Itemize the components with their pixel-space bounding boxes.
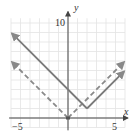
x-tick-neg5: −5 xyxy=(12,121,23,132)
axes xyxy=(9,12,128,131)
x-axis-label: x xyxy=(123,106,129,117)
x-tick-5: 5 xyxy=(112,121,117,132)
y-tick-10: 10 xyxy=(55,17,65,28)
graph: 10 y x −5 5 xyxy=(0,0,136,135)
origin-point xyxy=(66,117,70,120)
solid-line xyxy=(87,71,124,108)
y-axis-label: y xyxy=(73,2,79,13)
solid-line xyxy=(12,33,87,108)
